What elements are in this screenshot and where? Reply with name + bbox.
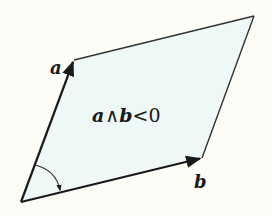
expr-rel: <0 [133, 104, 161, 126]
label-b: b [194, 171, 207, 192]
expr-b: b [119, 104, 132, 126]
expr-a: a [92, 104, 104, 126]
wedge-expression: a∧b<0 [92, 104, 161, 126]
label-a: a [50, 57, 62, 78]
expr-wedge: ∧ [105, 104, 119, 126]
wedge-product-diagram: a b a∧b<0 [0, 0, 272, 216]
